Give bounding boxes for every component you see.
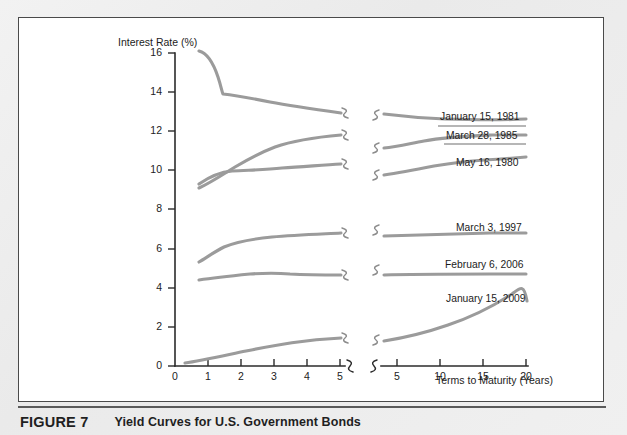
- x-tick-label-left-2: 2: [231, 370, 251, 382]
- x-tick-label-right-5: 5: [387, 370, 407, 382]
- y-tick-label-10: 10: [140, 163, 162, 175]
- series-label-february-6-2006: February 6, 2006: [445, 259, 523, 270]
- y-tick-label-4: 4: [140, 281, 162, 293]
- y-tick-label-2: 2: [140, 320, 162, 332]
- y-tick-label-14: 14: [140, 85, 162, 97]
- y-tick-label-6: 6: [140, 242, 162, 254]
- series-label-march-3-1997: March 3, 1997: [456, 222, 522, 233]
- x-tick-label-left-4: 4: [297, 370, 317, 382]
- y-tick-label-16: 16: [140, 46, 162, 58]
- x-tick-label-left-3: 3: [264, 370, 284, 382]
- x-tick-label-left-5: 5: [330, 370, 350, 382]
- x-tick-label-right-10: 10: [430, 370, 450, 382]
- x-tick-label-right-20: 20: [516, 370, 536, 382]
- series-label-january-15-1981: January 15, 1981: [440, 111, 520, 122]
- figure-number: FIGURE 7: [20, 414, 88, 430]
- x-tick-label-left-1: 1: [198, 370, 218, 382]
- caption-divider: [18, 406, 606, 408]
- figure-title: Yield Curves for U.S. Government Bonds: [114, 415, 360, 429]
- chart-plate: [18, 17, 604, 402]
- y-tick-label-12: 12: [140, 124, 162, 136]
- y-tick-label-0: 0: [140, 359, 162, 371]
- figure-caption: FIGURE 7 Yield Curves for U.S. Governmen…: [20, 411, 606, 433]
- y-tick-label-8: 8: [140, 202, 162, 214]
- series-label-may-16-1980: May 16, 1980: [456, 157, 518, 168]
- x-tick-label-right-15: 15: [473, 370, 493, 382]
- figure-root: Interest Rate (%) Terms to Maturity (Yea…: [0, 0, 627, 435]
- x-tick-label-left-0: 0: [165, 370, 185, 382]
- series-label-march-28-1985: March 28, 1985: [446, 130, 518, 141]
- series-label-january-15-2009: January 15, 2009: [446, 293, 526, 304]
